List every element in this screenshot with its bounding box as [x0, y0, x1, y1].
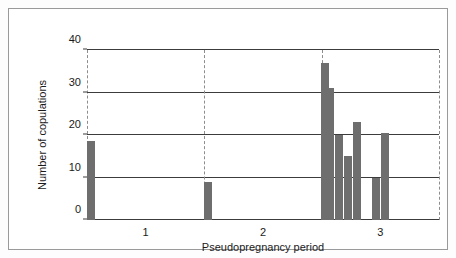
x-tick-label-2: 2: [260, 227, 266, 238]
bar: [344, 156, 352, 220]
figure-canvas: Number of copulations 010203040 123 Pseu…: [0, 0, 456, 258]
bar: [204, 182, 212, 220]
y-axis-title: Number of copulations: [35, 50, 49, 220]
bar: [87, 141, 95, 220]
y-tick-label-40: 40: [69, 34, 81, 45]
x-tick-label-1: 1: [143, 227, 149, 238]
figure-frame: Number of copulations 010203040 123 Pseu…: [8, 8, 448, 250]
gridline-y-30: [87, 92, 439, 93]
bar: [372, 178, 380, 221]
bar: [381, 133, 389, 220]
y-tick-label-20: 20: [69, 119, 81, 130]
bar: [335, 135, 343, 220]
bar: [326, 88, 334, 220]
x-axis-title: Pseudopregnancy period: [87, 241, 439, 253]
y-tick-label-30: 30: [69, 76, 81, 87]
y-tick-mark-40: [83, 49, 87, 50]
y-tick-mark-20: [83, 134, 87, 135]
bar: [353, 122, 361, 220]
y-tick-label-0: 0: [75, 204, 81, 215]
y-tick-label-10: 10: [69, 161, 81, 172]
period-separator-3.5: [439, 50, 440, 220]
gridline-y-40: [87, 49, 439, 50]
y-tick-mark-30: [83, 91, 87, 92]
y-axis-title-text: Number of copulations: [36, 80, 48, 190]
plot-area: 010203040 123: [87, 50, 439, 220]
x-tick-label-3: 3: [377, 227, 383, 238]
